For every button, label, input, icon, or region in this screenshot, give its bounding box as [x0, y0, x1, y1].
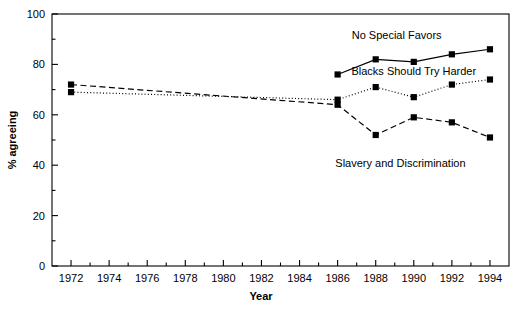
- series-annotation-2: Slavery and Discrimination: [335, 157, 465, 169]
- line-chart: 020406080100 197219741976197819801982198…: [0, 0, 522, 311]
- chart-container: 020406080100 197219741976197819801982198…: [0, 0, 522, 311]
- x-tick-label: 1984: [287, 272, 311, 284]
- y-tick-label: 0: [39, 260, 45, 272]
- data-point-marker: [487, 134, 493, 140]
- data-point-marker: [335, 71, 341, 77]
- y-tick-label: 100: [27, 8, 45, 20]
- y-tick-label: 80: [33, 58, 45, 70]
- data-point-marker: [411, 114, 417, 120]
- data-point-marker: [449, 119, 455, 125]
- x-tick-label: 1982: [249, 272, 273, 284]
- x-tick-label: 1976: [135, 272, 159, 284]
- x-tick-label: 1980: [211, 272, 235, 284]
- series-annotation-0: No Special Favors: [352, 29, 442, 41]
- data-point-marker: [373, 56, 379, 62]
- data-point-marker: [487, 76, 493, 82]
- y-axis-title: % agreeing: [6, 111, 18, 170]
- data-point-marker: [373, 84, 379, 90]
- y-tick-label: 40: [33, 159, 45, 171]
- data-point-marker: [68, 81, 74, 87]
- data-point-marker: [68, 89, 74, 95]
- x-tick-label: 1974: [97, 272, 121, 284]
- x-tick-label: 1986: [325, 272, 349, 284]
- x-tick-label: 1972: [59, 272, 83, 284]
- x-tick-label: 1988: [363, 272, 387, 284]
- series-annotation-1: Blacks Should Try Harder: [351, 65, 476, 77]
- data-point-marker: [487, 46, 493, 52]
- x-tick-label: 1994: [478, 272, 502, 284]
- data-point-marker: [411, 94, 417, 100]
- x-tick-label: 1978: [173, 272, 197, 284]
- y-tick-label: 20: [33, 210, 45, 222]
- data-point-marker: [449, 51, 455, 57]
- data-point-marker: [373, 132, 379, 138]
- data-point-marker: [335, 102, 341, 108]
- y-tick-label: 60: [33, 109, 45, 121]
- x-tick-label: 1990: [402, 272, 426, 284]
- x-tick-label: 1992: [440, 272, 464, 284]
- x-axis-title: Year: [249, 290, 273, 302]
- data-point-marker: [449, 81, 455, 87]
